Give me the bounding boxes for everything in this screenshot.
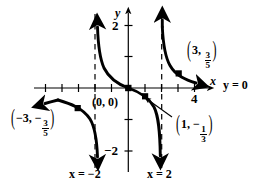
x-tick-label-4: 4	[191, 92, 198, 105]
asymptote-label-left: x = −2	[69, 168, 101, 180]
paren-open: (	[187, 39, 191, 61]
point-label-left: (−3, −35)	[10, 112, 55, 138]
horizontal-asymptote-label: y = 0	[223, 79, 248, 91]
point-label-right: (3, 35)	[186, 44, 218, 70]
fraction-denominator: 5	[205, 60, 212, 70]
point-label-inner-right: (1, −13)	[175, 118, 213, 144]
point-marker-origin	[125, 85, 131, 91]
fraction-numerator: 1	[200, 125, 207, 134]
point-label-origin: (0, 0)	[92, 96, 118, 108]
graph-canvas	[0, 0, 267, 185]
point-left-x: −3	[16, 111, 29, 125]
comma: ,	[198, 43, 204, 57]
paren-close: )	[50, 107, 54, 129]
paren-open: (	[176, 113, 180, 135]
fraction-three-fifths: 35	[205, 51, 212, 71]
point-marker-inner-right	[142, 93, 148, 99]
point-inner-right-y-sign: −	[193, 117, 200, 131]
fraction-denominator: 5	[42, 128, 49, 138]
y-tick-label-2: 2	[112, 19, 119, 32]
point-marker-left	[75, 105, 81, 111]
asymptote-label-right: x = 2	[147, 168, 172, 180]
paren-close: )	[208, 113, 212, 135]
fraction-three-fifths: 35	[42, 119, 49, 139]
fraction-denominator: 3	[200, 134, 207, 144]
fraction-numerator: 3	[205, 51, 212, 60]
point-left-y-sign: −	[35, 111, 42, 125]
paren-open: (	[11, 107, 15, 129]
curve-left-branch-tail	[45, 100, 58, 104]
y-axis	[125, 13, 133, 172]
fraction-one-third: 13	[200, 125, 207, 145]
curve-middle-left-branch	[98, 27, 129, 88]
leader-line-inner-right	[149, 101, 172, 118]
paren-close: )	[213, 39, 217, 61]
x-axis-label: x	[210, 75, 216, 87]
math-graph-figure: y x 2 −2 4 y = 0 x = −2 x = 2 (0, 0) (3,…	[0, 0, 267, 185]
point-marker-right	[176, 70, 182, 76]
y-tick-label-negative-2: −2	[104, 144, 118, 157]
fraction-numerator: 3	[42, 119, 49, 128]
